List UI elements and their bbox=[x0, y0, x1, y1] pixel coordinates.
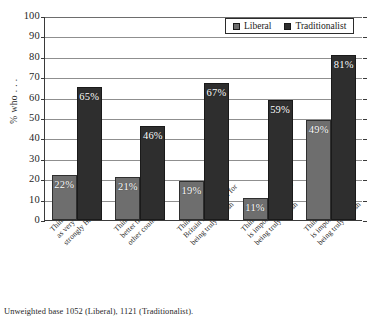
bar-traditionalist: 65% bbox=[77, 87, 102, 220]
y-tick-label: 30 bbox=[2, 153, 40, 164]
legend-label: Liberal bbox=[244, 21, 271, 31]
axis-tick-mark bbox=[363, 17, 367, 18]
legend-item-liberal: Liberal bbox=[233, 21, 271, 31]
bar-traditionalist: 81% bbox=[331, 55, 356, 220]
bar-value-label: 65% bbox=[79, 91, 99, 102]
bar-traditionalist: 67% bbox=[204, 83, 229, 220]
axis-tick-mark bbox=[363, 99, 367, 100]
y-tick-label: 100 bbox=[2, 10, 40, 21]
legend-item-traditionalist: Traditionalist bbox=[284, 21, 346, 31]
bar-group: 19%67% bbox=[172, 17, 236, 220]
bar-liberal: 49% bbox=[306, 120, 331, 220]
axis-tick-mark bbox=[363, 160, 367, 161]
y-tick-label: 40 bbox=[2, 132, 40, 143]
y-tick-label: 50 bbox=[2, 112, 40, 123]
chart-footnote: Unweighted base 1052 (Liberal), 1121 (Tr… bbox=[4, 307, 193, 316]
bar-group: 21%46% bbox=[109, 17, 173, 220]
x-axis-category-labels: Think of selfas verystrongly BritishThin… bbox=[0, 221, 376, 301]
legend-swatch-icon bbox=[284, 23, 291, 30]
y-tick-label: 60 bbox=[2, 92, 40, 103]
y-tick-label: 90 bbox=[2, 30, 40, 41]
y-tick-label: 80 bbox=[2, 51, 40, 62]
y-tick-label: 70 bbox=[2, 71, 40, 82]
bar-traditionalist: 46% bbox=[140, 126, 165, 220]
axis-tick-mark bbox=[363, 78, 367, 79]
bar-liberal: 11% bbox=[243, 198, 268, 220]
bar-value-label: 19% bbox=[182, 185, 202, 196]
legend-label: Traditionalist bbox=[295, 21, 346, 31]
bar-value-label: 22% bbox=[54, 179, 74, 190]
bar-group: 22%65% bbox=[45, 17, 109, 220]
bar-liberal: 22% bbox=[52, 175, 77, 220]
legend-swatch-icon bbox=[233, 23, 240, 30]
bar-liberal: 21% bbox=[115, 177, 140, 220]
axis-tick-mark bbox=[363, 180, 367, 181]
y-tick-label: 20 bbox=[2, 173, 40, 184]
chart-legend: LiberalTraditionalist bbox=[225, 18, 354, 34]
bar-group: 11%59% bbox=[236, 17, 300, 220]
bar-value-label: 21% bbox=[118, 181, 138, 192]
axis-tick-mark bbox=[363, 37, 367, 38]
axis-tick-mark bbox=[363, 139, 367, 140]
axis-tick-mark bbox=[363, 119, 367, 120]
axis-tick-mark bbox=[363, 58, 367, 59]
y-tick-label: 10 bbox=[2, 194, 40, 205]
bar-chart-figure: % who . . . 1009080706050403020100 22%65… bbox=[0, 0, 376, 323]
bar-value-label: 11% bbox=[245, 202, 264, 213]
bar-value-label: 49% bbox=[309, 124, 329, 135]
bar-liberal: 19% bbox=[179, 181, 204, 220]
bar-traditionalist: 59% bbox=[268, 100, 293, 220]
bar-value-label: 81% bbox=[334, 59, 354, 70]
bar-value-label: 67% bbox=[207, 87, 227, 98]
bar-value-label: 59% bbox=[270, 104, 290, 115]
plot-area: 22%65%21%46%19%67%11%59%49%81% bbox=[44, 17, 362, 221]
bar-group: 49%81% bbox=[299, 17, 363, 220]
bar-value-label: 46% bbox=[143, 130, 163, 141]
